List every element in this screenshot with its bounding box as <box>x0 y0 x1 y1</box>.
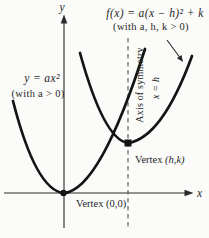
parabola-diagram: y x f(x) = a(x − h)² + k (with a, h, k >… <box>0 0 209 238</box>
origin-vertex-label-prefix: Vertex <box>76 198 106 209</box>
diagram-canvas: y x f(x) = a(x − h)² + k (with a, h, k >… <box>0 0 209 238</box>
origin-vertex-label-value: (0,0) <box>106 198 127 210</box>
axis-of-symmetry-label: Axis of symmetry <box>134 47 145 122</box>
basic-parabola-formula: y = ax² <box>23 72 60 85</box>
hk-vertex-label: Vertex (h,k) <box>135 154 185 166</box>
y-axis-label: y <box>58 1 65 14</box>
origin-vertex-label: Vertex (0,0) <box>76 198 127 210</box>
axis-of-symmetry-equation: x = h <box>150 77 161 100</box>
hk-vertex-label-value: (h,k) <box>165 154 185 166</box>
origin-vertex-dot <box>60 190 66 196</box>
shifted-parabola-condition: (with a, h, k > 0) <box>113 21 189 33</box>
basic-parabola-condition: (with a > 0) <box>12 88 65 100</box>
x-axis-label: x <box>196 187 203 199</box>
hk-vertex-label-prefix: Vertex <box>135 154 165 165</box>
shifted-parabola-formula: f(x) = a(x − h)² + k <box>106 7 204 20</box>
hk-vertex-square <box>125 140 132 147</box>
